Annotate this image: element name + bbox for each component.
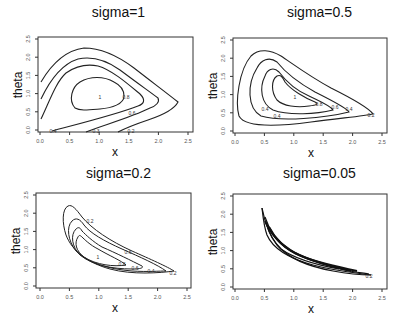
svg-text:0.4: 0.4 — [274, 113, 281, 119]
svg-text:2.5: 2.5 — [183, 294, 191, 300]
svg-text:0.2: 0.2 — [128, 128, 135, 134]
svg-text:1.5: 1.5 — [23, 228, 29, 236]
svg-text:0.5: 0.5 — [261, 139, 269, 145]
contour-plot: 0.00.51.0 1.52.02.5 0.0 0.5 1.0 1.5 2.0 … — [201, 0, 402, 161]
panel-sigma-1: sigma=1 0.00.51.0 1.52.02.5 0.0 0.5 1.0 … — [0, 0, 201, 161]
svg-text:0.4: 0.4 — [148, 268, 155, 274]
svg-text:2.0: 2.0 — [220, 210, 226, 218]
panel-sigma-0-2: sigma=0.2 0.00.51.0 1.52.02.5 0.0 0.5 1.… — [0, 161, 201, 322]
svg-text:0.5: 0.5 — [66, 138, 74, 144]
svg-text:2.0: 2.0 — [25, 53, 31, 61]
svg-text:0.3: 0.3 — [93, 128, 100, 134]
svg-text:1.5: 1.5 — [319, 295, 327, 301]
svg-text:0.0: 0.0 — [220, 283, 226, 291]
y-axis-label: theta — [11, 71, 25, 98]
svg-text:1.0: 1.0 — [220, 247, 226, 255]
y-axis-label: theta — [9, 227, 23, 254]
svg-text:0.8: 0.8 — [316, 101, 323, 107]
svg-text:0.4: 0.4 — [346, 106, 353, 112]
panel-title: sigma=0.5 — [219, 4, 402, 20]
svg-text:0.6: 0.6 — [125, 249, 132, 255]
svg-text:2.0: 2.0 — [349, 295, 357, 301]
svg-text:2.5: 2.5 — [220, 36, 226, 44]
svg-text:2.0: 2.0 — [23, 209, 29, 217]
svg-text:0.2: 0.2 — [87, 218, 94, 224]
svg-text:0.4: 0.4 — [50, 128, 57, 134]
svg-text:0.0: 0.0 — [36, 294, 44, 300]
svg-text:1.0: 1.0 — [95, 294, 103, 300]
svg-text:2.0: 2.0 — [155, 138, 163, 144]
svg-text:1.5: 1.5 — [125, 138, 133, 144]
svg-text:0.5: 0.5 — [25, 108, 31, 116]
svg-text:0.0: 0.0 — [220, 127, 226, 135]
panel-sigma-0-5: sigma=0.5 0.00.51.0 1.52.02.5 0.0 0.5 1.… — [201, 0, 402, 161]
svg-text:2.5: 2.5 — [23, 191, 29, 199]
contour-plot: 0.00.51.0 1.52.02.5 0.0 0.5 1.0 1.5 2.0 … — [201, 161, 402, 322]
svg-text:2.5: 2.5 — [378, 295, 386, 301]
x-axis-label: x — [112, 301, 118, 315]
svg-text:1: 1 — [294, 94, 297, 100]
svg-text:0.5: 0.5 — [220, 265, 226, 273]
svg-text:0.6: 0.6 — [132, 265, 139, 271]
svg-text:1.5: 1.5 — [220, 229, 226, 237]
svg-text:1: 1 — [97, 254, 100, 260]
svg-text:2.5: 2.5 — [378, 139, 386, 145]
x-axis-label: x — [112, 145, 118, 159]
svg-text:0.5: 0.5 — [66, 294, 74, 300]
svg-text:1.0: 1.0 — [220, 91, 226, 99]
svg-text:0.0: 0.0 — [231, 139, 239, 145]
panel-title: sigma=0.2 — [18, 165, 219, 181]
svg-text:1.5: 1.5 — [25, 72, 31, 80]
x-axis-label: x — [308, 302, 314, 316]
svg-text:1.0: 1.0 — [290, 139, 298, 145]
svg-text:0.6: 0.6 — [129, 110, 136, 116]
contour-plot: 0.00.51.0 1.52.02.5 0.0 0.5 1.0 1.5 2.0 … — [0, 0, 201, 161]
svg-text:2.0: 2.0 — [220, 54, 226, 62]
svg-text:0.2: 0.2 — [170, 270, 177, 276]
svg-text:2.5: 2.5 — [184, 138, 192, 144]
svg-text:1: 1 — [99, 94, 102, 100]
svg-text:0.8: 0.8 — [123, 94, 130, 100]
y-axis-label: theta — [206, 228, 220, 255]
svg-text:0.2: 0.2 — [366, 273, 373, 279]
panel-title: sigma=1 — [18, 4, 219, 20]
panel-title: sigma=0.05 — [219, 165, 402, 181]
svg-text:1.0: 1.0 — [25, 90, 31, 98]
svg-text:0.2: 0.2 — [368, 112, 375, 118]
svg-text:0.6: 0.6 — [332, 104, 339, 110]
svg-text:1.5: 1.5 — [220, 73, 226, 81]
svg-text:1.5: 1.5 — [319, 139, 327, 145]
svg-text:0.5: 0.5 — [23, 264, 29, 272]
svg-text:2.0: 2.0 — [154, 294, 162, 300]
svg-text:0.5: 0.5 — [220, 109, 226, 117]
y-axis-label: theta — [206, 72, 220, 99]
svg-text:1.5: 1.5 — [124, 294, 132, 300]
svg-text:1.0: 1.0 — [290, 295, 298, 301]
contour-plot: 0.00.51.0 1.52.02.5 0.0 0.5 1.0 1.5 2.0 … — [0, 161, 201, 322]
svg-text:2.5: 2.5 — [25, 35, 31, 43]
svg-text:1.0: 1.0 — [23, 246, 29, 254]
svg-text:0.4: 0.4 — [262, 106, 269, 112]
svg-text:0.0: 0.0 — [231, 295, 239, 301]
svg-text:2.5: 2.5 — [220, 192, 226, 200]
panel-sigma-0-05: sigma=0.05 0.00.51.0 1.52.02.5 0.0 0.5 1… — [201, 161, 402, 322]
svg-text:0.0: 0.0 — [25, 126, 31, 134]
svg-text:0.0: 0.0 — [36, 138, 44, 144]
svg-text:0.0: 0.0 — [23, 282, 29, 290]
svg-text:1.0: 1.0 — [95, 138, 103, 144]
svg-text:0.8: 0.8 — [119, 261, 126, 267]
svg-text:0.5: 0.5 — [261, 295, 269, 301]
svg-text:2.0: 2.0 — [349, 139, 357, 145]
x-axis-label: x — [308, 146, 314, 160]
